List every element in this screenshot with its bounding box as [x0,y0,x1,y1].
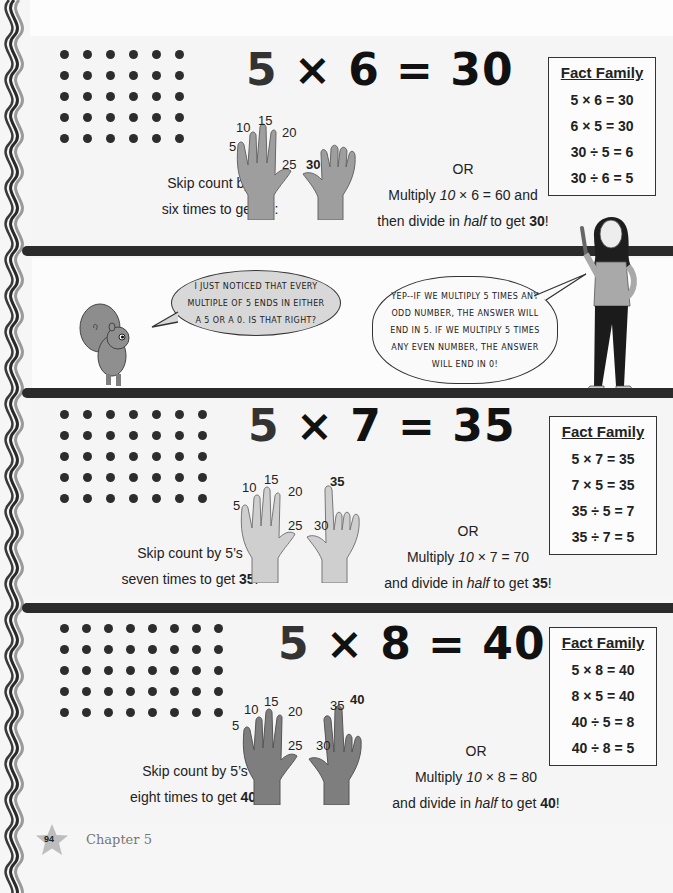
spiral-binding-decoration [0,0,32,893]
equation-factor-a: 5 [246,44,278,95]
divide-half: half [475,795,498,811]
equation-equals: = [428,618,466,669]
equation-factor-b: 7 [350,400,382,451]
equation-heading: 5 × 6 = 30 [246,44,514,95]
divide-bang: ! [556,795,560,811]
hand-label: 20 [282,125,296,140]
equation-result: 35 [452,400,515,451]
equation-equals: = [398,400,436,451]
speech-line: I JUST NOTICED THAT EVERY [172,278,340,295]
hand-label: 15 [264,694,278,709]
divide-text: and divide in [384,575,467,591]
divide-half: half [467,575,490,591]
divider-bar [22,388,673,398]
multiply-text: Multiply [407,549,458,565]
hand-label: 20 [288,484,302,499]
equation-equals: = [396,44,434,95]
skip-line2-text: seven times to get [122,571,240,587]
divider-bar [22,603,673,613]
divide-text-mid: to get [489,575,532,591]
divide-text: then divide in [377,213,463,229]
workbook-page: 5 × 6 = 30 Skip count by 5’s six times t… [0,0,673,893]
hand-label: 10 [242,480,256,495]
fact-family-row: 30 ÷ 5 = 6 [549,139,655,165]
divide-line: and divide in half to get 40! [346,790,606,816]
hand-label: 5 [232,718,239,733]
dot-array-5x6 [53,44,191,149]
hand-label: 10 [244,702,258,717]
equation-factor-a: 5 [248,400,280,451]
divide-line: and divide in half to get 35! [338,570,598,596]
multiply-line: Multiply 10 × 8 = 80 [346,764,606,790]
skip-line2-text: eight times to get [130,789,241,805]
hand-label: 15 [258,113,272,128]
equation-result: 30 [450,44,513,95]
multiply-rest: × 6 = 60 and [455,187,538,203]
girl-illustration-icon [574,206,654,394]
divide-bang: ! [548,575,552,591]
multiply-ten: 10 [466,769,482,785]
equation-factor-a: 5 [278,618,310,669]
speech-line: MULTIPLE OF 5 ENDS IN EITHER [172,295,340,312]
fact-family-row: 5 × 8 = 40 [550,657,656,683]
speech-line: WILL END IN 0! [373,356,557,373]
fact-family-row: 40 ÷ 5 = 8 [550,709,656,735]
hand-label: 20 [288,704,302,719]
equation-operator: × [294,44,332,95]
fact-family-row: 5 × 6 = 30 [549,87,655,113]
divide-total: 30 [529,213,545,229]
speech-line: END IN 5. IF WE MULTIPLY 5 TIMES [373,322,557,339]
hand-label: 15 [264,472,278,487]
dot-array-5x8 [53,618,229,723]
hand-label: 25 [282,157,296,172]
equation-factor-b: 6 [348,44,380,95]
hand-label: 25 [288,738,302,753]
multiply-ten: 10 [440,187,456,203]
fact-family-row: 35 ÷ 7 = 5 [550,524,656,550]
hand-label: 25 [288,518,302,533]
fact-family-box: Fact Family 5 × 7 = 35 7 × 5 = 35 35 ÷ 5… [549,416,657,555]
dot-array-5x7 [53,404,214,509]
speech-tail [150,310,180,330]
squirrel-speech-bubble: I JUST NOTICED THAT EVERY MULTIPLE OF 5 … [171,270,341,336]
divide-text-mid: to get [486,213,529,229]
speech-line: A 5 OR A 0. IS THAT RIGHT? [172,312,340,329]
fact-family-box: Fact Family 5 × 8 = 40 8 × 5 = 40 40 ÷ 5… [549,627,657,766]
multiply-rest: × 8 = 80 [482,769,537,785]
multiply-text: Multiply [415,769,466,785]
divide-bang: ! [545,213,549,229]
fact-family-title: Fact Family [550,634,656,651]
hand-label: 30 [316,738,330,753]
divide-half: half [464,213,487,229]
multiply-rest: × 7 = 70 [474,549,529,565]
divide-line: then divide in half to get 30! [333,208,593,234]
equation-heading: 5 × 8 = 40 [278,618,546,669]
equation-operator: × [296,400,334,451]
hand-label: 30 [314,518,328,533]
page-number: 94 [44,834,54,844]
fact-family-box: Fact Family 5 × 6 = 30 6 × 5 = 30 30 ÷ 5… [548,57,656,196]
fact-family-row: 5 × 7 = 35 [550,446,656,472]
divide-total: 35 [532,575,548,591]
fact-family-title: Fact Family [549,64,655,81]
top-margin [30,0,673,36]
hand-label: 10 [236,120,250,135]
speech-line: ODD NUMBER, THE ANSWER WILL [373,305,557,322]
hand-label: 40 [350,692,364,707]
fact-family-row: 40 ÷ 8 = 5 [550,735,656,761]
hand-label: 35 [330,474,344,489]
divide-text: and divide in [392,795,475,811]
hand-label: 35 [330,698,344,713]
equation-factor-b: 8 [380,618,412,669]
multiply-ten: 10 [458,549,474,565]
speech-line: ANY EVEN NUMBER, THE ANSWER [373,339,557,356]
hand-label: 5 [233,498,240,513]
squirrel-illustration-icon [78,296,134,388]
equation-operator: × [326,618,364,669]
fact-family-row: 8 × 5 = 40 [550,683,656,709]
fact-family-row: 35 ÷ 5 = 7 [550,498,656,524]
hand-label: 5 [229,139,236,154]
equation-result: 40 [482,618,545,669]
hand-label: 30 [306,157,320,172]
divide-total: 40 [540,795,556,811]
